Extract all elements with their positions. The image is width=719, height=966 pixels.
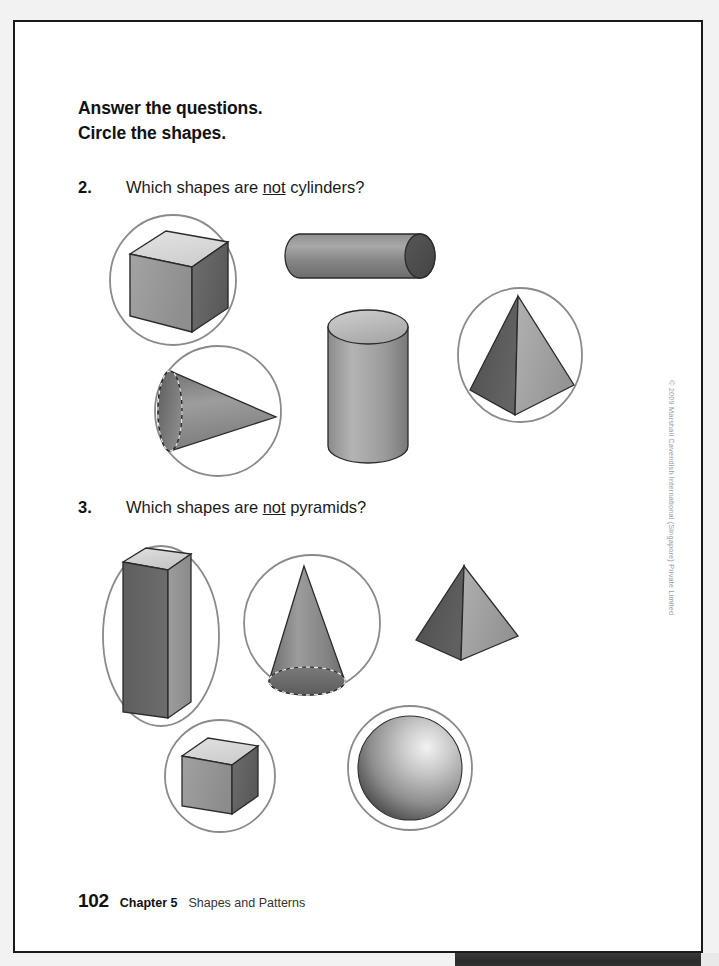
question-3-prompt-emphasis: not xyxy=(263,498,286,516)
instruction-line-2: Circle the shapes. xyxy=(78,121,263,146)
copyright-notice: © 2009 Marshall Cavendish International … xyxy=(667,380,676,630)
question-3-prompt-before: Which shapes are xyxy=(126,498,263,516)
page-bottom-edge-shadow xyxy=(455,953,701,966)
question-2-prompt-after: cylinders? xyxy=(286,178,365,196)
footer-chapter-title: Shapes and Patterns xyxy=(188,896,305,910)
question-2-prompt: Which shapes are not cylinders? xyxy=(126,178,364,197)
question-3-prompt-after: pyramids? xyxy=(286,498,367,516)
instruction-line-1: Answer the questions. xyxy=(78,96,263,121)
footer-page-number: 102 xyxy=(78,890,109,912)
question-3-number: 3. xyxy=(78,498,92,517)
page-footer: 102 Chapter 5 Shapes and Patterns xyxy=(78,890,305,912)
page-bottom-edge-right xyxy=(701,953,719,966)
instructions-heading: Answer the questions. Circle the shapes. xyxy=(78,96,263,146)
question-3-prompt: Which shapes are not pyramids? xyxy=(126,498,366,517)
question-2-prompt-before: Which shapes are xyxy=(126,178,263,196)
question-2-number: 2. xyxy=(78,178,92,197)
question-2-prompt-emphasis: not xyxy=(263,178,286,196)
page-frame xyxy=(13,20,703,953)
footer-chapter-label: Chapter 5 xyxy=(120,896,178,910)
